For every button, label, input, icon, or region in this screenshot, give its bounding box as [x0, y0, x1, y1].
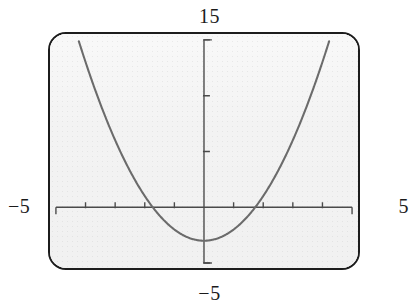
plot-area [50, 34, 358, 269]
figure-root: 15 −5 −5 5 [0, 0, 419, 307]
y-max-label: 15 [0, 6, 419, 26]
axes [56, 40, 352, 263]
x-max-label: 5 [399, 196, 410, 216]
x-min-label: −5 [8, 196, 30, 216]
y-min-label: −5 [0, 283, 419, 303]
calculator-screen [48, 32, 360, 270]
